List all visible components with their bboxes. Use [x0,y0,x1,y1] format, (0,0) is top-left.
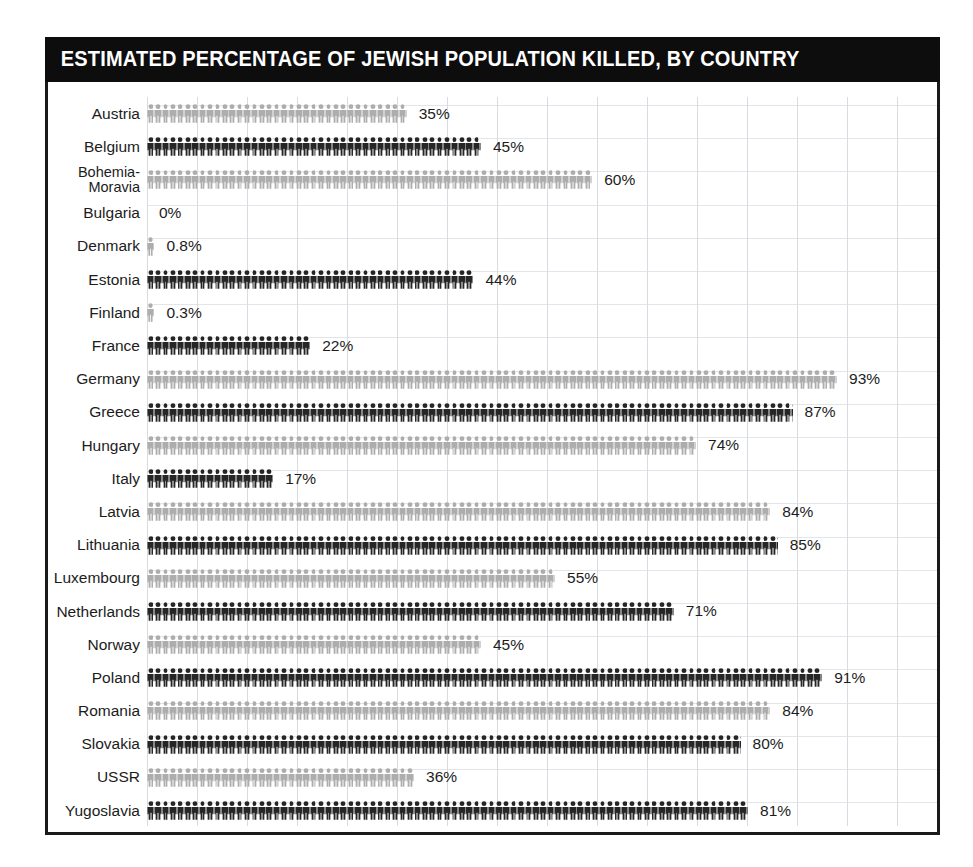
value-label: 60% [604,171,635,189]
country-label: Romania [48,703,147,719]
value-label: 35% [419,105,450,123]
value-label: 36% [426,768,457,786]
table-row: Greece87% [48,396,937,429]
value-label: 93% [849,370,880,388]
pictogram-bar [147,569,555,588]
value-label: 0.8% [166,237,201,255]
bar-wrapper: 93% [147,363,937,396]
pictogram-bar [147,768,414,787]
bar-wrapper: 84% [147,495,937,528]
country-label: Austria [48,106,147,122]
pictogram-bar [147,735,741,754]
value-label: 45% [493,138,524,156]
table-row: Germany93% [48,363,937,396]
bar-wrapper: 22% [147,329,937,362]
pictogram-bar [147,701,770,720]
country-label: Greece [48,404,147,420]
table-row: Denmark0.8% [48,230,937,263]
country-label: Belgium [48,139,147,155]
value-label: 91% [834,669,865,687]
value-label: 74% [708,436,739,454]
table-row: Belgium45% [48,130,937,163]
country-label: Netherlands [48,604,147,620]
bar-wrapper: 91% [147,661,937,694]
value-label: 84% [782,503,813,521]
bar-wrapper: 44% [147,263,937,296]
country-label: Denmark [48,238,147,254]
bar-wrapper: 84% [147,694,937,727]
table-row: Finland0.3% [48,296,937,329]
pictogram-bar [147,536,778,555]
value-label: 44% [485,271,516,289]
value-label: 87% [805,403,836,421]
value-label: 71% [686,602,717,620]
country-label: Norway [48,637,147,653]
value-label: 80% [753,735,784,753]
table-row: Yugoslavia81% [48,794,937,827]
infographic-card: Austria35%Belgium45%Bohemia- Moravia60%B… [45,37,940,835]
table-row: Romania84% [48,694,937,727]
bar-wrapper: 55% [147,562,937,595]
country-label: Latvia [48,504,147,520]
table-row: Hungary74% [48,429,937,462]
country-label: Yugoslavia [48,803,147,819]
pictogram-bar [147,104,407,123]
country-label: Lithuania [48,537,147,553]
bar-wrapper: 71% [147,595,937,628]
country-label: Finland [48,305,147,321]
table-row: Austria35% [48,97,937,130]
bar-wrapper: 35% [147,97,937,130]
value-label: 0% [159,204,181,222]
pictogram-bar [147,635,481,654]
country-label: Germany [48,371,147,387]
title-banner: ESTIMATED PERCENTAGE OF JEWISH POPULATIO… [45,37,940,82]
pictogram-bar [147,237,154,256]
table-row: Norway45% [48,628,937,661]
bar-wrapper: 36% [147,761,937,794]
bar-wrapper: 45% [147,130,937,163]
pictogram-bar [147,436,696,455]
bar-wrapper: 80% [147,728,937,761]
country-label: Estonia [48,272,147,288]
country-label: Luxembourg [48,570,147,586]
bar-wrapper: 60% [147,163,937,196]
table-row: Bohemia- Moravia60% [48,163,937,196]
table-row: Italy17% [48,462,937,495]
pictogram-bar [147,370,837,389]
pictogram-bar [147,403,793,422]
bar-wrapper: 87% [147,396,937,429]
value-label: 17% [285,470,316,488]
country-label: Poland [48,670,147,686]
pictogram-bar [147,801,748,820]
value-label: 55% [567,569,598,587]
pictogram-bar [147,668,822,687]
pictogram-bar [147,303,154,322]
bar-wrapper: 17% [147,462,937,495]
pictogram-bar [147,336,310,355]
country-label: Bohemia- Moravia [48,165,147,195]
pictogram-bar [147,469,273,488]
chart-rows: Austria35%Belgium45%Bohemia- Moravia60%B… [48,97,937,827]
table-row: Luxembourg55% [48,562,937,595]
country-label: USSR [48,769,147,785]
bar-wrapper: 0% [147,197,937,230]
table-row: Netherlands71% [48,595,937,628]
pictogram-bar [147,137,481,156]
pictogram-bar [147,502,770,521]
bar-wrapper: 0.8% [147,230,937,263]
value-label: 22% [322,337,353,355]
value-label: 85% [790,536,821,554]
value-label: 81% [760,802,791,820]
country-label: Slovakia [48,736,147,752]
table-row: France22% [48,329,937,362]
pictogram-bar [147,170,592,189]
table-row: Lithuania85% [48,528,937,561]
country-label: France [48,338,147,354]
value-label: 0.3% [166,304,201,322]
bar-wrapper: 0.3% [147,296,937,329]
pictogram-bar [147,602,674,621]
page-title: ESTIMATED PERCENTAGE OF JEWISH POPULATIO… [45,47,800,72]
table-row: Bulgaria0% [48,197,937,230]
bar-wrapper: 74% [147,429,937,462]
table-row: Estonia44% [48,263,937,296]
